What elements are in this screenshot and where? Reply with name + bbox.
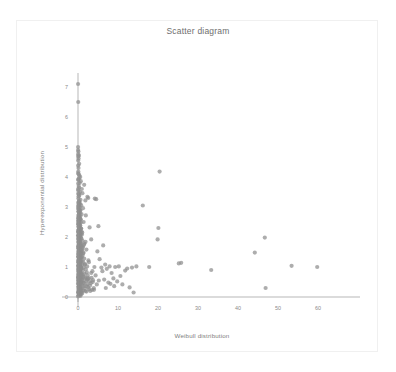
data-point xyxy=(89,271,93,275)
data-point xyxy=(104,286,108,290)
data-point xyxy=(96,224,100,228)
data-point xyxy=(89,237,93,241)
data-point xyxy=(99,266,103,270)
data-point xyxy=(88,225,92,229)
y-tick-label: 6 xyxy=(65,114,68,120)
data-point xyxy=(77,225,81,229)
x-tick-label: 20 xyxy=(155,305,161,311)
data-point xyxy=(84,213,88,217)
x-tick-label: 30 xyxy=(195,305,201,311)
data-point xyxy=(209,268,213,272)
data-point xyxy=(118,274,122,278)
data-point xyxy=(78,209,82,213)
data-point xyxy=(85,264,89,268)
data-point xyxy=(102,278,106,282)
data-point xyxy=(92,265,96,269)
data-point xyxy=(141,203,145,207)
data-point xyxy=(95,282,99,286)
data-point xyxy=(128,285,132,289)
data-point xyxy=(81,281,85,285)
axis-ticks-layer: 010203040506001234567 xyxy=(65,84,321,311)
y-tick-label: 2 xyxy=(65,234,68,240)
data-point xyxy=(132,290,136,294)
y-tick-label: 1 xyxy=(65,264,68,270)
data-point xyxy=(315,265,319,269)
data-point xyxy=(79,266,83,270)
x-axis-title: Weibull distribution xyxy=(175,332,230,339)
data-point xyxy=(156,237,160,241)
data-point xyxy=(84,284,88,288)
x-tick-label: 50 xyxy=(275,305,281,311)
data-point xyxy=(82,257,86,261)
data-point xyxy=(94,197,98,201)
x-tick-label: 0 xyxy=(77,305,80,311)
data-point xyxy=(117,264,121,268)
data-point xyxy=(113,265,117,269)
data-point xyxy=(100,269,104,273)
data-point xyxy=(111,276,115,280)
data-point xyxy=(112,284,116,288)
data-point xyxy=(87,260,91,264)
data-point xyxy=(77,234,81,238)
data-point xyxy=(97,278,101,282)
data-point xyxy=(147,265,151,269)
data-point xyxy=(156,226,160,230)
data-point xyxy=(86,276,90,280)
data-point xyxy=(101,243,105,247)
x-tick-label: 10 xyxy=(115,305,121,311)
data-point xyxy=(253,251,257,255)
data-point xyxy=(179,261,183,265)
data-point xyxy=(95,249,99,253)
y-tick-label: 5 xyxy=(65,144,68,150)
data-point xyxy=(103,263,107,267)
data-point xyxy=(134,264,138,268)
data-point xyxy=(94,273,98,277)
data-point xyxy=(263,236,267,240)
data-point xyxy=(130,266,134,270)
data-point xyxy=(76,194,80,198)
data-point xyxy=(83,240,87,244)
data-point xyxy=(98,257,102,261)
data-points-layer xyxy=(76,82,319,299)
data-point xyxy=(79,272,83,276)
data-point xyxy=(83,198,87,202)
y-tick-label: 7 xyxy=(65,84,68,90)
y-tick-label: 3 xyxy=(65,204,68,210)
scatter-plot-svg: 010203040506001234567 Weibull distributi… xyxy=(0,0,396,372)
x-tick-label: 60 xyxy=(315,305,321,311)
data-point xyxy=(108,282,112,286)
data-point xyxy=(120,282,124,286)
y-axis-title: Hyperexponential distribution xyxy=(38,151,45,236)
data-point xyxy=(88,284,92,288)
data-point xyxy=(115,279,119,283)
x-tick-label: 40 xyxy=(235,305,241,311)
data-point xyxy=(82,183,86,187)
data-point xyxy=(110,271,114,275)
data-point xyxy=(290,264,294,268)
data-point xyxy=(108,264,112,268)
data-point xyxy=(158,170,162,174)
data-point xyxy=(77,216,81,220)
y-tick-label: 0 xyxy=(65,294,68,300)
data-point xyxy=(91,280,95,284)
data-point xyxy=(125,266,129,270)
scatter-plot: 010203040506001234567 Weibull distributi… xyxy=(0,0,396,372)
data-point xyxy=(92,288,96,292)
y-tick-label: 4 xyxy=(65,174,68,180)
data-point xyxy=(264,286,268,290)
